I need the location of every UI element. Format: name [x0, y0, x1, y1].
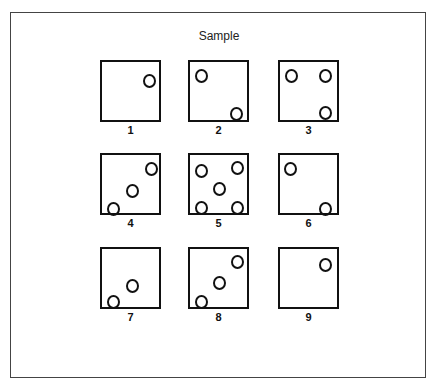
pattern-box-7: [100, 247, 161, 309]
pattern-label: 2: [188, 124, 249, 136]
circle-icon: [319, 202, 332, 216]
circle-icon: [231, 255, 244, 269]
pattern-label: 3: [278, 124, 339, 136]
circle-icon: [126, 184, 139, 198]
circle-icon: [107, 202, 120, 216]
pattern-label: 8: [188, 311, 249, 323]
circle-icon: [195, 69, 208, 83]
circle-icon: [195, 295, 208, 309]
circle-icon: [284, 162, 297, 176]
pattern-box-6: [278, 153, 339, 215]
circle-icon: [285, 69, 298, 83]
circle-icon: [230, 107, 243, 121]
circle-icon: [319, 106, 332, 120]
circle-icon: [213, 276, 226, 290]
circle-icon: [143, 74, 156, 88]
pattern-label: 1: [100, 124, 161, 136]
pattern-label: 9: [278, 311, 339, 323]
circle-icon: [107, 295, 120, 309]
pattern-label: 4: [100, 217, 161, 229]
pattern-label: 7: [100, 311, 161, 323]
pattern-box-5: [188, 153, 249, 215]
circle-icon: [145, 162, 158, 176]
circle-icon: [213, 182, 226, 196]
circle-icon: [126, 279, 139, 293]
circle-icon: [231, 201, 244, 215]
pattern-box-9: [278, 247, 339, 309]
circle-icon: [319, 69, 332, 83]
figure-title: Sample: [0, 29, 438, 43]
pattern-box-4: [100, 153, 161, 215]
pattern-box-1: [100, 60, 161, 122]
pattern-box-2: [188, 60, 249, 122]
circle-icon: [195, 201, 208, 215]
pattern-box-8: [188, 247, 249, 309]
circle-icon: [319, 258, 332, 272]
circle-icon: [231, 161, 244, 175]
pattern-box-3: [278, 60, 339, 122]
circle-icon: [195, 164, 208, 178]
pattern-label: 5: [188, 217, 249, 229]
pattern-label: 6: [278, 217, 339, 229]
